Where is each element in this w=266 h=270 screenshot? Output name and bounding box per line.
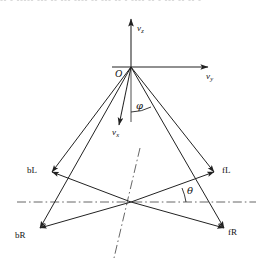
v-x-axis-label: vx [112, 128, 119, 137]
theta-angle-label: θ [187, 186, 193, 196]
phi-angle-label: φ [136, 101, 143, 111]
origin-label: O [115, 69, 122, 79]
vector-diagram-canvas [0, 0, 266, 270]
figure-root: -- - ----- --- -- --- ---- -- --- -- - -… [0, 0, 266, 270]
vector-fR-from-hub [131, 202, 224, 228]
v-z-axis-label: vz [137, 24, 144, 33]
theta-angle-arc [182, 188, 186, 202]
vector-bL-from-hub [52, 172, 131, 202]
v-y-axis-label: vy [206, 72, 213, 81]
vector-bR-label: bR [15, 231, 26, 240]
vector-bR-from-origin [40, 67, 131, 228]
vector-fL-label: fL [222, 166, 231, 175]
vector-bL-from-origin [52, 67, 131, 172]
vector-bL-label: bL [27, 166, 37, 175]
vector-fL-from-hub [131, 172, 214, 202]
vector-bR-from-hub [40, 202, 131, 228]
vector-fL-from-origin [131, 67, 214, 172]
vector-fR-label: fR [228, 228, 237, 237]
vector-fR-from-origin [131, 67, 224, 228]
